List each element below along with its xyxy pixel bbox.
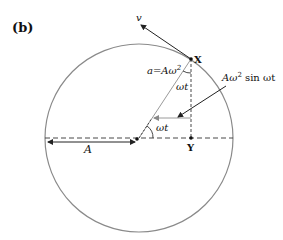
panel-label: (b): [12, 20, 33, 35]
point-y-dot: [189, 136, 193, 140]
angle-arc-top: [183, 71, 191, 73]
velocity-vector: [141, 25, 191, 59]
angle-arc-bottom: [147, 126, 153, 138]
component-label: Aω2 sin ωt: [221, 71, 275, 83]
angle-label-bottom: ωt: [156, 122, 169, 133]
shm-diagram: (b) v X Y A a=Aω2 ωt ωt Aω2 sin ωt: [0, 0, 283, 240]
center-dot: [135, 137, 139, 141]
acceleration-label: a=Aω2: [147, 64, 182, 76]
velocity-label: v: [136, 12, 142, 23]
point-y-label: Y: [186, 142, 195, 153]
angle-label-top: ωt: [176, 81, 189, 92]
point-x-dot: [189, 57, 193, 61]
radius-label: A: [83, 143, 92, 156]
point-x-label: X: [194, 54, 202, 65]
